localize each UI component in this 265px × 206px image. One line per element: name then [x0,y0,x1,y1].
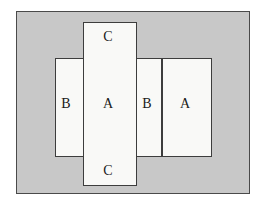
label-a-center: A [99,97,117,111]
label-c-top: C [99,30,117,44]
label-b-right: B [138,97,156,111]
inner-vertical-divider [161,58,163,157]
label-b-left: B [57,97,75,111]
label-a-far-right: A [176,97,194,111]
figure-canvas: B A B A C C [0,0,265,206]
label-c-bottom: C [99,164,117,178]
